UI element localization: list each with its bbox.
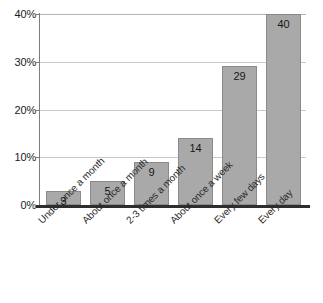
y-tick-label-20: 20% (2, 105, 36, 116)
bar-value-label: 14 (179, 142, 212, 154)
bar-every-day[interactable]: 40 (266, 14, 301, 205)
bar-value-label: 29 (223, 70, 256, 82)
y-tick-label-0: 0% (2, 200, 36, 211)
y-tick-label-30: 30% (2, 57, 36, 68)
bar-chart: 40% 30% 20% 10% 0% 3 5 9 14 29 (0, 0, 323, 303)
y-axis-labels: 40% 30% 20% 10% 0% (0, 0, 36, 303)
bar-value-label: 40 (267, 18, 300, 30)
y-tick-label-40: 40% (2, 9, 36, 20)
y-tick-label-10: 10% (2, 152, 36, 163)
